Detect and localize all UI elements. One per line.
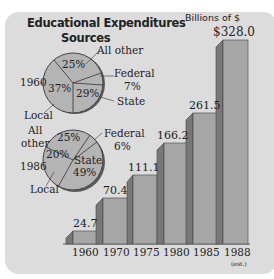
x-label-1985: 1985 (193, 246, 220, 258)
pie1960-local-label: Local (24, 109, 53, 121)
bar-value-1988: $328.0 (213, 25, 255, 39)
bar-1970 (96, 198, 128, 244)
bar-value-1975: 111.1 (128, 161, 160, 174)
bar-1960 (66, 231, 98, 244)
pie1960-state-label: State (117, 95, 145, 107)
x-label-1960: 1960 (72, 246, 99, 258)
bar-1988 (216, 40, 248, 244)
bar-1975 (127, 175, 157, 244)
pie1960-year: 1960 (20, 76, 47, 88)
pie1986-all-label: All (28, 124, 42, 136)
pie1960-federal-label: Federal (114, 67, 155, 79)
pie1986-state-label: State (74, 154, 102, 166)
pie1960-all-other-pct: 25% (62, 58, 85, 70)
pie1960-federal-pct: 7% (124, 80, 141, 92)
bar-value-1960: 24.7 (73, 217, 98, 230)
units-label: Billions of $ (185, 12, 240, 23)
bar-value-1985: 261.5 (189, 99, 221, 112)
bar-1980 (157, 143, 188, 244)
pie1986-federal-pct: 6% (114, 140, 131, 152)
est-note: (est.) (231, 260, 247, 267)
pie1986-all-other-pct: 25% (57, 131, 80, 143)
x-label-1970: 1970 (103, 246, 130, 258)
bar-value-1970: 70.4 (103, 184, 128, 197)
chart-subtitle: Sources (61, 31, 110, 45)
pie1986-year: 1986 (20, 160, 47, 172)
pie1960-state-pct: 29% (76, 87, 99, 99)
pie1960-all-other-label: All other (97, 44, 143, 56)
x-label-1988: 1988 (224, 246, 251, 258)
chart-title: Educational Expenditures (27, 16, 186, 30)
pie1960-local-pct: 37% (48, 82, 71, 94)
pie1986-federal-label: Federal (104, 127, 145, 139)
bar-value-1980: 166.2 (157, 129, 189, 142)
x-label-1975: 1975 (133, 246, 160, 258)
bar-1985 (186, 113, 218, 244)
pie1986-state-pct: 49% (73, 166, 96, 178)
pie1986-local-pct: 20% (46, 148, 69, 160)
pie1986-local-label: Local (30, 183, 59, 195)
x-label-1980: 1980 (163, 246, 190, 258)
